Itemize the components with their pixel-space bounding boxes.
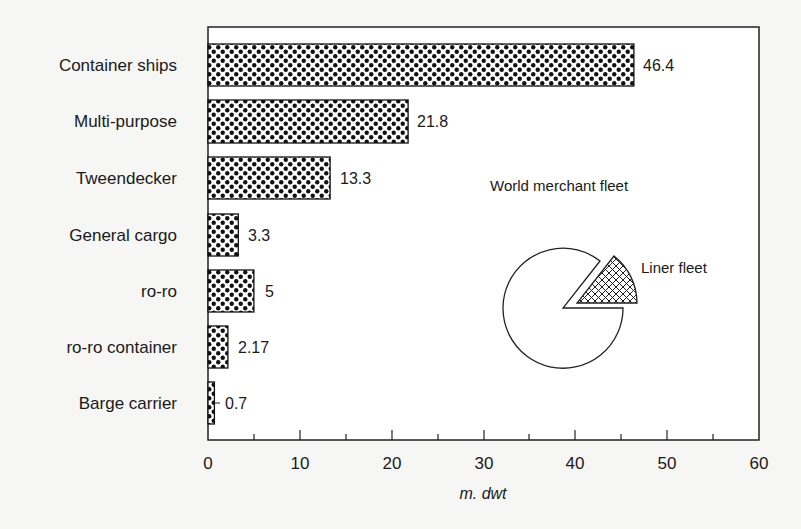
category-label: General cargo — [69, 226, 177, 245]
bar-tweendecker — [208, 157, 330, 199]
category-label: ro-ro — [141, 282, 177, 301]
tick-label: 0 — [203, 454, 212, 473]
bar-ro-ro-container — [208, 326, 228, 368]
bar-ro-ro — [208, 270, 254, 312]
value-label: 46.4 — [643, 57, 674, 74]
category-label: Barge carrier — [79, 394, 178, 413]
pie-slice-label: Liner fleet — [641, 259, 708, 276]
bar-general-cargo — [208, 214, 238, 256]
plot-area — [208, 27, 759, 440]
value-label: 13.3 — [340, 170, 371, 187]
bar-multi-purpose — [208, 100, 408, 143]
chart-canvas: Container ships Multi-purpose Tweendecke… — [0, 0, 801, 529]
pie-title: World merchant fleet — [490, 177, 629, 194]
tick-label: 50 — [658, 454, 677, 473]
category-label: Container ships — [59, 56, 177, 75]
bar-barge-carrier — [208, 382, 214, 424]
x-axis-title: m. dwt — [459, 485, 507, 502]
category-label: ro-ro container — [66, 338, 177, 357]
tick-label: 40 — [566, 454, 585, 473]
value-label: 3.3 — [248, 227, 270, 244]
x-axis-tick-labels: 0 10 20 30 40 50 60 — [203, 454, 768, 473]
category-labels: Container ships Multi-purpose Tweendecke… — [59, 56, 177, 413]
category-label: Tweendecker — [76, 169, 177, 188]
value-label: 2.17 — [238, 339, 269, 356]
tick-label: 10 — [291, 454, 310, 473]
tick-label: 60 — [750, 454, 769, 473]
value-label: 5 — [265, 283, 274, 300]
category-label: Multi-purpose — [74, 112, 177, 131]
tick-label: 20 — [383, 454, 402, 473]
tick-label: 30 — [475, 454, 494, 473]
bar-container-ships — [208, 44, 634, 86]
value-label: 0.7 — [225, 395, 247, 412]
value-label: 21.8 — [417, 113, 448, 130]
